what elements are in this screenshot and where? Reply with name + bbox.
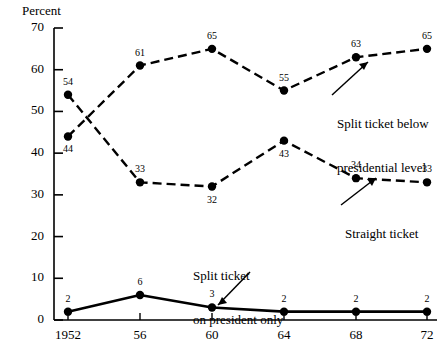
annotation-president-only: Split ticket on president only: [193, 240, 283, 353]
y-tick-label: 60: [18, 62, 44, 77]
data-point: [208, 182, 216, 190]
data-point-label: 2: [416, 293, 438, 304]
annotation-straight-ticket-line1: Straight ticket: [345, 227, 418, 242]
x-tick-label: 56: [115, 328, 165, 343]
data-point: [208, 45, 216, 53]
data-point: [423, 307, 431, 315]
data-point-label: 32: [201, 194, 223, 205]
data-point-label: 55: [273, 72, 295, 83]
y-axis-ticks: [54, 28, 63, 320]
annotation-split-below: Split ticket below presidential level: [337, 88, 429, 204]
data-point-label: 54: [57, 76, 79, 87]
annotation-president-only-line2: on president only: [193, 313, 283, 328]
data-point: [280, 86, 288, 94]
data-point: [136, 178, 144, 186]
data-point-label: 2: [57, 293, 79, 304]
y-tick-label: 30: [18, 187, 44, 202]
data-point-label: 2: [345, 293, 367, 304]
annotation-president-only-line1: Split ticket: [193, 269, 283, 284]
data-point-label: 6: [129, 276, 151, 287]
data-point: [352, 53, 360, 61]
data-point-label: 63: [345, 38, 367, 49]
data-point-label: 65: [416, 30, 438, 41]
annotation-split-below-line2: presidential level: [337, 161, 429, 176]
data-point-label: 65: [201, 30, 223, 41]
data-point-label: 43: [273, 148, 295, 159]
data-point-label: 44: [57, 143, 79, 154]
data-point: [352, 307, 360, 315]
data-point: [64, 91, 72, 99]
data-point: [136, 61, 144, 69]
y-tick-label: 20: [18, 229, 44, 244]
data-point: [280, 136, 288, 144]
data-point: [64, 132, 72, 140]
y-tick-label: 40: [18, 145, 44, 160]
x-tick-label: 68: [331, 328, 381, 343]
x-tick-label: 1952: [43, 328, 93, 343]
y-tick-label: 70: [18, 20, 44, 35]
data-point: [423, 45, 431, 53]
data-point: [64, 307, 72, 315]
y-tick-label: 0: [18, 312, 44, 327]
annotation-split-below-line1: Split ticket below: [337, 117, 429, 132]
y-tick-label: 10: [18, 270, 44, 285]
y-tick-label: 50: [18, 103, 44, 118]
data-point-label: 61: [129, 47, 151, 58]
annotation-straight-ticket: Straight ticket: [345, 198, 418, 271]
line-chart: Percent 706050403020100 19525660646872 4…: [0, 0, 447, 353]
data-point-label: 33: [129, 163, 151, 174]
x-tick-label: 72: [402, 328, 447, 343]
data-point: [136, 291, 144, 299]
